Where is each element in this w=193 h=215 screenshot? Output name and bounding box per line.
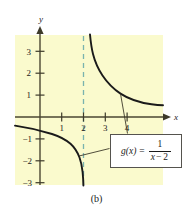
equation-label-box: g(x) = 1 x−2	[110, 134, 182, 168]
y-tick-label-3: 3	[27, 47, 32, 57]
figure-container: 1 2 3 4 3 2 1 −1 −2 −3 x y g(x) = 1 x−2	[0, 0, 193, 215]
y-axis-label: y	[38, 14, 43, 24]
fraction-numerator: 1	[154, 140, 165, 150]
y-axis-arrowhead	[36, 26, 43, 34]
equation-expression: g(x) = 1 x−2	[121, 140, 171, 162]
x-tick-label-2: 2	[81, 123, 86, 133]
fraction: 1 x−2	[149, 140, 171, 162]
figure-caption: (b)	[0, 193, 193, 204]
function-name: g(x)	[121, 146, 136, 156]
y-tick-label-neg3: −3	[22, 178, 32, 188]
y-tick-label-1: 1	[27, 90, 32, 100]
equals-sign: =	[139, 146, 144, 156]
minus-sign: −	[156, 152, 161, 162]
y-tick-label-2: 2	[27, 68, 32, 78]
y-tick-label-neg1: −1	[22, 134, 32, 144]
x-axis-arrowhead	[163, 113, 171, 120]
denominator-number: 2	[163, 152, 168, 162]
y-tick-label-neg2: −2	[22, 156, 32, 166]
denominator-variable: x	[151, 152, 155, 162]
x-axis-label: x	[173, 112, 178, 122]
function-plot: 1 2 3 4 3 2 1 −1 −2 −3 x y	[0, 0, 193, 215]
fraction-denominator: x−2	[149, 153, 171, 163]
x-tick-label-1: 1	[59, 123, 64, 133]
x-tick-label-3: 3	[103, 123, 108, 133]
